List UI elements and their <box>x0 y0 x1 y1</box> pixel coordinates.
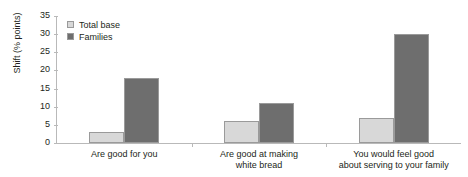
bar-families <box>124 78 159 143</box>
category-label: You would feel goodabout serving to your… <box>314 149 468 171</box>
y-tick-label: 0 <box>45 137 50 148</box>
legend-swatch-total-base <box>67 21 74 28</box>
y-tick-mark <box>54 34 58 35</box>
bar-group <box>359 16 429 143</box>
category-separator-tick <box>326 143 327 147</box>
bar-group <box>224 16 294 143</box>
bar-families <box>394 34 429 143</box>
legend-label-total-base: Total base <box>79 20 120 30</box>
y-tick-label: 30 <box>40 28 50 39</box>
y-tick-mark <box>54 16 58 17</box>
bar-total-base <box>89 132 124 143</box>
y-tick-mark <box>54 70 58 71</box>
y-axis-title: Shift (% points) <box>12 0 22 98</box>
category-label-line: about serving to your family <box>314 160 468 171</box>
bar-total-base <box>359 118 394 143</box>
legend: Total base Families <box>67 19 120 43</box>
legend-label-families: Families <box>79 32 113 42</box>
y-tick-mark <box>54 125 58 126</box>
legend-item-total-base: Total base <box>67 19 120 30</box>
y-tick-label: 20 <box>40 64 50 75</box>
bar-chart: Shift (% points) 35302520151050 Are good… <box>0 0 468 177</box>
bar-total-base <box>224 121 259 143</box>
y-tick-label: 35 <box>40 10 50 21</box>
y-tick-mark <box>54 52 58 53</box>
y-tick-label: 5 <box>45 119 50 130</box>
legend-item-families: Families <box>67 31 120 42</box>
x-axis-line <box>56 143 461 144</box>
y-tick-label: 15 <box>40 83 50 94</box>
y-tick-label: 10 <box>40 101 50 112</box>
y-tick-mark <box>54 143 58 144</box>
y-tick-mark <box>54 89 58 90</box>
y-tick-label: 25 <box>40 46 50 57</box>
category-label-line: You would feel good <box>314 149 468 160</box>
y-tick-mark <box>54 107 58 108</box>
bar-families <box>259 103 294 143</box>
legend-swatch-families <box>67 33 74 40</box>
category-separator-tick <box>192 143 193 147</box>
